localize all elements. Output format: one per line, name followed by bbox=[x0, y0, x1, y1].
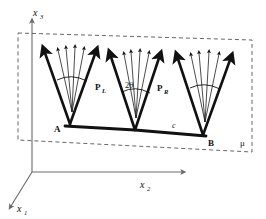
vector-label-PL: P bbox=[95, 82, 101, 92]
point-label-A: A bbox=[54, 124, 61, 134]
vee-right bbox=[178, 52, 230, 135]
axis-label-x1: x bbox=[16, 203, 22, 214]
vee-left-arm-left bbox=[45, 53, 70, 124]
vee-right-arm-right bbox=[203, 60, 230, 135]
vee-right-angle-arc bbox=[190, 85, 220, 89]
fan-arrow bbox=[66, 48, 72, 112]
vee-left-angle-arc bbox=[57, 77, 87, 81]
fan-arrow bbox=[199, 53, 205, 122]
plane-label-mu: μ bbox=[240, 138, 245, 148]
axis-label-x2: x bbox=[139, 179, 145, 190]
segment-label-c: c bbox=[172, 121, 176, 130]
angle-label-two-theta: 2θ bbox=[125, 80, 133, 90]
axis-x1-line bbox=[11, 172, 32, 206]
vee-left bbox=[45, 47, 95, 124]
point-label-B: B bbox=[208, 138, 214, 148]
fan-arrow bbox=[191, 55, 205, 122]
fan-arrow bbox=[58, 50, 72, 112]
mu-plane-outline bbox=[18, 33, 252, 152]
coordinate-axes bbox=[11, 22, 182, 206]
axis-label-x3-subscript: 3 bbox=[39, 13, 44, 20]
axis-label-x2-subscript: 2 bbox=[147, 185, 151, 192]
vee-left-arm-right bbox=[70, 54, 95, 124]
vee-middle bbox=[111, 51, 159, 130]
vector-label-PR: P bbox=[157, 83, 163, 93]
mu-plane bbox=[18, 33, 252, 152]
axis-label-x3: x bbox=[32, 7, 38, 18]
vector-label-PL-subscript: L bbox=[101, 87, 106, 94]
vector-label-PR-subscript: R bbox=[163, 88, 169, 95]
geometry-diagram: x 3 x 2 x 1 A B c μ P L P R 2θ bbox=[0, 0, 266, 219]
axis-label-x1-subscript: 1 bbox=[24, 209, 27, 216]
vee-right-arm-left bbox=[178, 59, 203, 135]
figure-container: x 3 x 2 x 1 A B c μ P L P R 2θ bbox=[0, 0, 266, 219]
